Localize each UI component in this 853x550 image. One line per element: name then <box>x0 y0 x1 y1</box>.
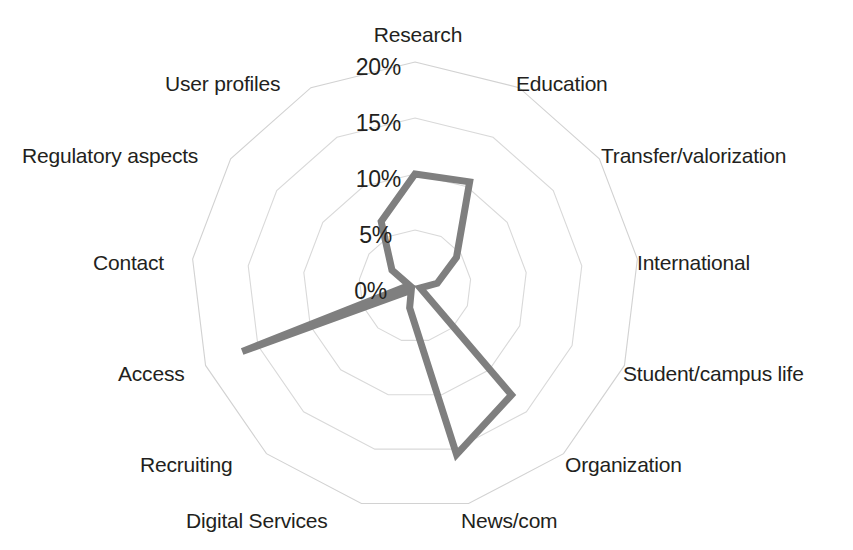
axis-label-education: Education <box>516 72 608 95</box>
radar-series-group <box>242 174 511 455</box>
axis-label-research: Research <box>374 23 462 46</box>
radar-gridlines <box>193 62 638 503</box>
axis-label-student: Student/campus life <box>623 362 804 385</box>
axis-label-regulatory: Regulatory aspects <box>22 144 198 167</box>
radar-chart-canvas: 20% 15% 10% 5% 0% Research Education Tra… <box>0 0 853 550</box>
radar-series-path <box>242 174 511 455</box>
grid-ring-10 <box>304 174 526 395</box>
tick-label-5: 5% <box>359 222 392 248</box>
radar-chart: 20% 15% 10% 5% 0% Research Education Tra… <box>0 0 853 550</box>
grid-ring-15 <box>248 118 582 449</box>
axis-label-transfer: Transfer/valorization <box>601 144 786 167</box>
grid-ring-20 <box>193 62 638 503</box>
axis-label-user-profiles: User profiles <box>165 72 280 95</box>
category-axis-labels: Research Education Transfer/valorization… <box>22 23 804 532</box>
tick-label-0: 0% <box>354 278 387 304</box>
axis-label-contact: Contact <box>93 251 164 274</box>
tick-label-10: 10% <box>356 166 401 192</box>
axis-label-news: News/com <box>461 509 557 532</box>
axis-label-international: International <box>637 251 750 274</box>
axis-label-recruiting: Recruiting <box>140 453 233 476</box>
tick-label-15: 15% <box>356 110 401 136</box>
axis-label-access: Access <box>118 362 185 385</box>
tick-label-20: 20% <box>356 54 401 80</box>
axis-label-organization: Organization <box>565 453 682 476</box>
axis-label-digital-services: Digital Services <box>186 509 328 532</box>
